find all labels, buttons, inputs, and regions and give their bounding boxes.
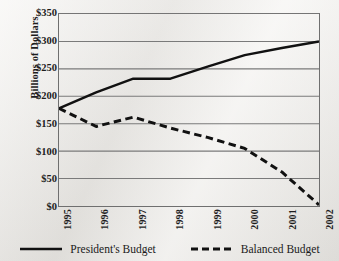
x-axis-tick-label: 1997 — [137, 209, 148, 230]
x-axis-tick-label: 2000 — [249, 209, 260, 230]
y-axis-tick-label: $250 — [17, 63, 57, 74]
y-axis-tick-label: $300 — [17, 35, 57, 46]
y-axis-tick-label: $0 — [17, 202, 57, 213]
plot-area — [58, 13, 320, 207]
y-axis-tick-label: $200 — [17, 91, 57, 102]
y-axis-tick-label: $350 — [17, 8, 57, 19]
plot-svg — [59, 14, 319, 206]
y-axis-tick-label: $150 — [17, 119, 57, 130]
legend-item-balanced-budget: Balanced Budget — [190, 243, 320, 255]
y-axis-tick-label: $100 — [17, 146, 57, 157]
x-axis-tick-label: 1996 — [99, 209, 110, 230]
x-axis-tick-label: 2001 — [287, 209, 298, 230]
legend-label: President's Budget — [70, 243, 155, 255]
x-axis-tick-label: 1998 — [174, 209, 185, 230]
y-axis-tick-labels: $0$50$100$150$200$250$300$350 — [16, 0, 57, 261]
dashed-line-swatch — [190, 245, 234, 253]
line-chart-figure: Billions of Dollars $0$50$100$150$200$25… — [0, 0, 339, 261]
solid-line-swatch — [19, 245, 63, 253]
series-line-balanced-budget — [59, 108, 319, 205]
x-axis-tick-label: 2002 — [324, 209, 335, 230]
x-axis-tick-label: 1995 — [62, 209, 73, 230]
y-axis-tick-label: $50 — [17, 174, 57, 185]
series-line-presidents-budget — [59, 41, 319, 108]
legend-item-presidents-budget: President's Budget — [19, 243, 155, 255]
chart-legend: President's Budget Balanced Budget — [0, 243, 339, 255]
x-axis-tick-label: 1999 — [212, 209, 223, 230]
legend-label: Balanced Budget — [241, 243, 320, 255]
